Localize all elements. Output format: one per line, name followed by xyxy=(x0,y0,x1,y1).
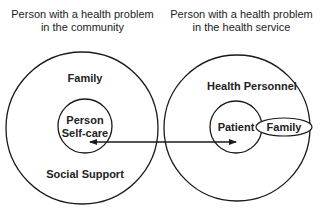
community-family-label: Family xyxy=(68,72,104,84)
diagram-canvas: Family Person Self-care Social Support H… xyxy=(0,0,326,209)
health-personnel-label: Health Personnel xyxy=(207,80,297,92)
self-care-label: Self-care xyxy=(62,127,108,139)
family-ellipse-label: Family xyxy=(267,121,303,133)
self-care-inner-circle xyxy=(58,99,112,153)
social-support-label: Social Support xyxy=(46,168,124,180)
patient-label: Patient xyxy=(218,121,255,133)
person-label: Person xyxy=(66,114,104,126)
